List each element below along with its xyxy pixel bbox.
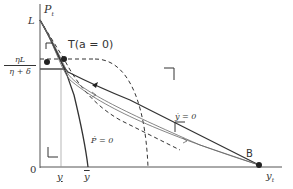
origin-label: 0: [30, 165, 36, 175]
label-t: T(a = 0): [68, 39, 113, 50]
t-dashed-curve: [95, 59, 148, 167]
label-ydot: ẏ = 0: [175, 113, 196, 121]
tick-y-under: y: [57, 172, 63, 182]
point-t: [61, 56, 67, 62]
diagram-canvas: [0, 0, 293, 189]
phase-diagram: Pt L ηL η + δ T(a = 0) ẏ = 0 Ṗ = 0 B 0 y…: [0, 0, 293, 189]
point-left: [44, 59, 50, 65]
direction-arrow-sw: [48, 147, 58, 157]
eta-fraction: ηL η + δ: [2, 55, 38, 76]
direction-arrow-ne: [164, 68, 174, 80]
label-b: B: [246, 149, 253, 159]
tick-y-over: y: [84, 172, 90, 182]
point-b: [256, 162, 262, 168]
label-pdot: Ṗ = 0: [91, 137, 113, 145]
x-axis-label: yt: [266, 171, 274, 183]
flow-marker: [92, 82, 98, 88]
tick-L: L: [28, 16, 35, 26]
y-axis-label: Pt: [44, 4, 54, 17]
